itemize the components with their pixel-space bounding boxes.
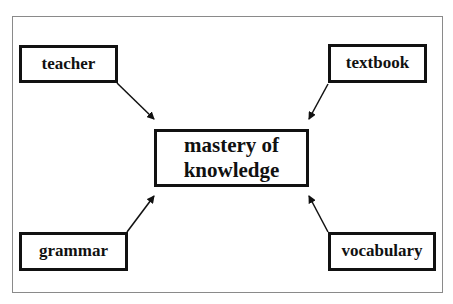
arrow-grammar: [127, 196, 154, 232]
node-vocabulary-label: vocabulary: [341, 242, 422, 261]
node-textbook-label: textbook: [346, 54, 409, 73]
center-label-line1: mastery of: [184, 133, 279, 158]
arrow-textbook: [309, 84, 328, 119]
center-label-line2: knowledge: [184, 158, 280, 183]
node-grammar: grammar: [19, 232, 128, 271]
node-mastery-of-knowledge: mastery of knowledge: [154, 129, 309, 187]
arrow-teacher: [117, 83, 154, 119]
node-vocabulary: vocabulary: [328, 232, 436, 271]
node-grammar-label: grammar: [39, 242, 108, 261]
node-textbook: textbook: [328, 44, 427, 83]
node-teacher-label: teacher: [42, 55, 96, 74]
arrow-vocabulary: [309, 196, 328, 232]
node-teacher: teacher: [19, 45, 118, 83]
